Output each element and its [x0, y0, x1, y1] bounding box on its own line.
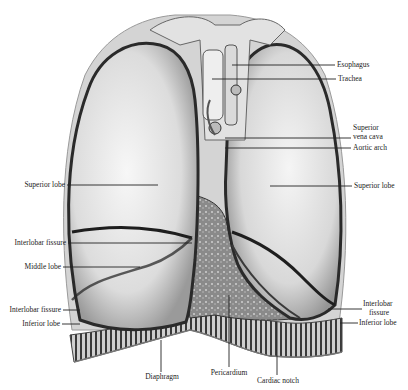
trachea-shape [203, 50, 223, 120]
label-superior-lobe-left-lung: Superior lobe [354, 182, 395, 190]
right-lung [69, 43, 198, 329]
label-superior-vena-cava-line2: vena cava [353, 133, 383, 141]
label-interlobar-fissure-upper: Interlobar fissure [0, 239, 66, 247]
label-inferior-lobe-left-side: Inferior lobe [0, 320, 60, 328]
label-inferior-lobe-right-side: Inferior lobe [359, 319, 397, 327]
label-pericardium: Pericardium [205, 369, 253, 377]
lung-illustration [0, 0, 408, 390]
vessel-stump [231, 85, 241, 95]
label-superior-vena-cava-line1: Superior [353, 124, 379, 132]
label-trachea: Trachea [338, 75, 362, 83]
label-diaphragm: Diaphragm [140, 373, 184, 381]
label-interlobar-fissure-right-line1: Interlobar [363, 300, 393, 308]
label-aortic-arch: Aortic arch [353, 144, 387, 152]
label-superior-lobe-right-lung: Superior lobe [0, 181, 65, 189]
label-interlobar-fissure-right-line2: fissure [369, 309, 389, 317]
label-esophagus: Esophagus [337, 61, 370, 69]
label-middle-lobe: Middle lobe [0, 263, 61, 271]
label-cardiac-notch: Cardiac notch [252, 377, 304, 385]
label-interlobar-fissure-lower-left: Interlobar fissure [0, 306, 61, 314]
